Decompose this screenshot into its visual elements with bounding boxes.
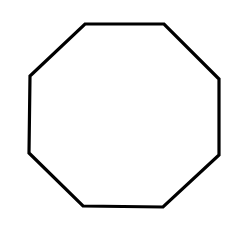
octagon-figure xyxy=(0,0,243,237)
diagram-canvas xyxy=(0,0,243,237)
octagon-shape xyxy=(29,24,219,207)
